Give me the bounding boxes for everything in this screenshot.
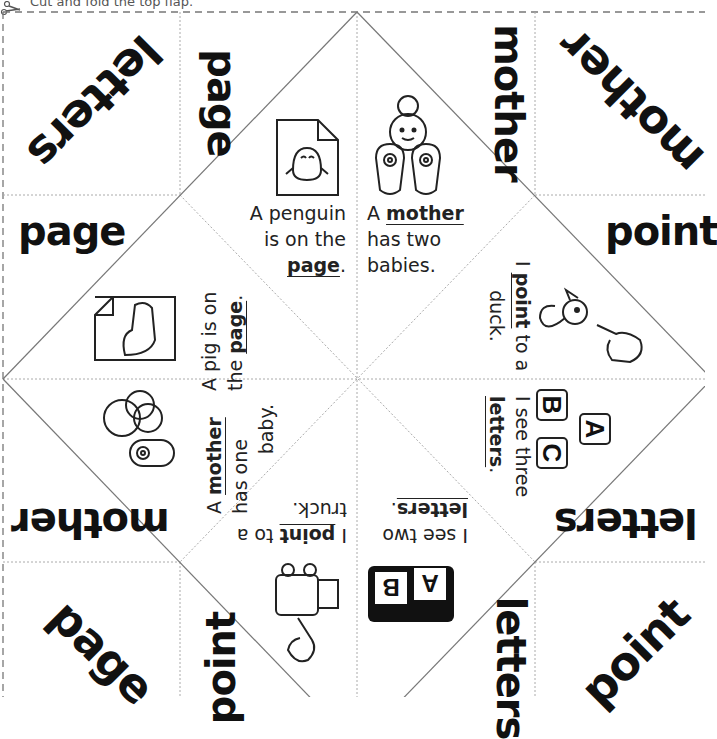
pig-sentence: A pig is on the page. <box>196 271 248 391</box>
duck-sentence: I point to a duck. <box>484 261 536 371</box>
duck-icon <box>540 290 587 327</box>
corner-word: point <box>605 208 717 254</box>
mother-two-sentence: A mother has two babies. <box>367 200 464 278</box>
corner-word: page <box>18 208 125 254</box>
mother-two-babies-icon <box>376 96 440 194</box>
penguin-page-icon <box>277 120 338 195</box>
mother-one-baby-icon <box>104 391 174 466</box>
corner-word: mother <box>12 500 170 546</box>
ab-blocks-icon <box>368 566 454 622</box>
abc-sentence: I see three letters. <box>484 396 536 506</box>
block-letter-b: B <box>537 396 567 415</box>
block-letter-c: C <box>537 444 567 463</box>
corner-word: letters <box>488 597 534 739</box>
corner-word: mother <box>486 24 532 182</box>
block-letter-b: B <box>382 574 399 601</box>
penguin-sentence: A penguin is on the page. <box>230 200 346 278</box>
truck-sentence: I point to a truck. <box>232 497 347 549</box>
corner-word: page <box>199 49 245 156</box>
truck-icon <box>276 564 338 615</box>
pointing-hand-icon <box>597 325 642 362</box>
pig-page-icon <box>95 297 175 360</box>
corner-word: point <box>198 612 244 724</box>
corner-word: letters <box>555 500 698 546</box>
pointing-hand-icon <box>288 618 314 661</box>
block-letter-a: A <box>580 420 610 439</box>
block-letter-a: A <box>421 570 438 597</box>
ab-sentence: I see two letters. <box>368 497 468 549</box>
